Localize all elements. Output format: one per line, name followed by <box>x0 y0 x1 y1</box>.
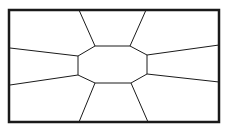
spoke-line-1 <box>79 10 95 46</box>
spoke-lines <box>10 10 219 122</box>
radial-partition-diagram <box>0 0 231 131</box>
center-octagon <box>78 46 147 83</box>
spoke-line-2 <box>130 10 146 46</box>
spoke-line-3 <box>147 45 219 55</box>
spoke-line-4 <box>147 74 219 82</box>
spoke-line-8 <box>10 48 78 56</box>
outer-frame <box>9 10 219 122</box>
spoke-line-7 <box>10 75 78 85</box>
spoke-line-6 <box>79 83 95 122</box>
spoke-line-5 <box>131 83 148 122</box>
